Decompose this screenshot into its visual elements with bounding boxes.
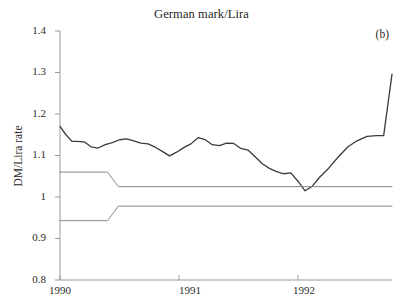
data-series-group — [60, 74, 392, 221]
plot-area — [0, 0, 403, 303]
series-line-dm/lira-rate — [60, 74, 392, 191]
series-line-lower-band-limit — [60, 206, 392, 221]
axis-group — [55, 31, 392, 280]
x-tick-marks — [60, 275, 298, 280]
series-line-upper-band-limit — [60, 172, 392, 187]
y-tick-marks — [55, 31, 60, 280]
chart-figure: German mark/Lira (b) DM/Lira rate 1.4 1.… — [0, 0, 403, 303]
